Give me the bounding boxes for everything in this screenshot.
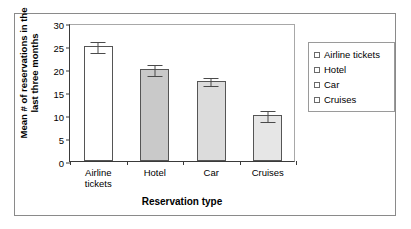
- legend-item-airline-tickets[interactable]: Airline tickets: [314, 47, 390, 62]
- y-axis-tick-mark: [66, 48, 70, 49]
- legend-item-label: Airline tickets: [324, 49, 380, 60]
- bar-car: [197, 81, 226, 162]
- x-axis-tick-mark: [296, 161, 297, 165]
- y-axis-tick-mark: [66, 117, 70, 118]
- error-bar-car: [203, 78, 219, 87]
- error-bar-cap-top: [147, 65, 162, 66]
- error-bar-cap-top: [260, 111, 275, 112]
- y-axis-tick-label: 25: [22, 43, 70, 54]
- x-axis-title: Reservation type: [69, 196, 295, 207]
- y-axis-tick-label: 20: [22, 66, 70, 77]
- bar-airline-tickets: [84, 46, 113, 161]
- x-axis-tick-mark: [240, 161, 241, 165]
- x-axis-tick-mark: [70, 161, 71, 165]
- x-axis-tick-mark: [127, 161, 128, 165]
- legend-item-hotel[interactable]: Hotel: [314, 62, 390, 77]
- legend-swatch-icon: [314, 52, 320, 58]
- y-axis-tick-mark: [66, 25, 70, 26]
- legend-item-car[interactable]: Car: [314, 77, 390, 92]
- x-axis-tick-label-line: Airline: [85, 167, 112, 178]
- y-axis-tick-mark: [66, 140, 70, 141]
- legend-swatch-icon: [314, 82, 320, 88]
- bar-hotel: [140, 69, 169, 161]
- y-axis-tick-label: 15: [22, 89, 70, 100]
- chart-figure: Mean # of reservations in the last three…: [0, 0, 411, 229]
- x-axis-tick-label: Hotel: [144, 167, 166, 178]
- error-bar-cap-bottom: [204, 86, 219, 87]
- error-bar-cap-bottom: [147, 76, 162, 77]
- legend-swatch-icon: [314, 97, 320, 103]
- legend-item-cruises[interactable]: Cruises: [314, 92, 390, 107]
- legend-item-label: Car: [324, 79, 339, 90]
- y-axis-tick-label: 5: [22, 135, 70, 146]
- plot-area: 051015202530AirlineticketsHotelCarCruise…: [69, 24, 295, 162]
- error-bar-cap-top: [204, 78, 219, 79]
- legend-swatch-icon: [314, 67, 320, 73]
- legend: Airline ticketsHotelCarCruises: [308, 42, 395, 112]
- x-axis-tick-label: Cruises: [252, 167, 284, 178]
- error-bar-hotel: [147, 65, 163, 77]
- error-bar-cap-bottom: [260, 122, 275, 123]
- x-axis-tick-label-line: tickets: [85, 178, 112, 189]
- x-axis-tick-label: Airlinetickets: [85, 167, 112, 189]
- y-axis-tick-label: 30: [22, 20, 70, 31]
- x-axis-tick-mark: [183, 161, 184, 165]
- error-bar-cruises: [260, 111, 276, 122]
- y-axis-tick-mark: [66, 94, 70, 95]
- x-axis-tick-label-line: Hotel: [144, 167, 166, 178]
- x-axis-tick-label-line: Car: [204, 167, 219, 178]
- y-axis-tick-label: 0: [22, 158, 70, 169]
- legend-item-label: Hotel: [324, 64, 346, 75]
- error-bar-cap-top: [91, 42, 106, 43]
- error-bar-airline-tickets: [90, 42, 106, 53]
- legend-item-label: Cruises: [324, 94, 356, 105]
- y-axis-tick-label: 10: [22, 112, 70, 123]
- x-axis-tick-label-line: Cruises: [252, 167, 284, 178]
- x-axis-tick-label: Car: [204, 167, 219, 178]
- error-bar-cap-bottom: [91, 53, 106, 54]
- y-axis-tick-mark: [66, 71, 70, 72]
